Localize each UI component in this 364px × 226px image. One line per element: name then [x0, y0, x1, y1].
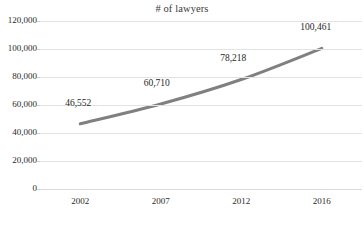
chart-container: # of lawyers 020,00040,00060,00080,00010…	[0, 0, 364, 226]
y-axis-tick-label: 120,000	[0, 15, 37, 25]
y-axis-tick-mark	[37, 49, 40, 50]
x-axis-tick-label: 2002	[50, 196, 110, 206]
y-axis-tick-label: 20,000	[0, 155, 37, 165]
y-axis-tick-mark	[37, 77, 40, 78]
y-axis-tick-mark	[37, 133, 40, 134]
data-point-label: 60,710	[127, 78, 187, 88]
y-axis-tick-label: 80,000	[0, 71, 37, 81]
gridline	[40, 161, 362, 162]
chart-title: # of lawyers	[0, 3, 364, 14]
y-axis-tick-mark	[37, 21, 40, 22]
data-point-label: 78,218	[203, 53, 263, 63]
gridline	[40, 49, 362, 50]
y-axis-tick-mark	[37, 189, 40, 190]
y-axis-tick-label: 0	[0, 183, 37, 193]
y-axis-tick-mark	[37, 105, 40, 106]
gridline	[40, 189, 362, 190]
x-axis-tick-label: 2007	[131, 196, 191, 206]
y-axis-tick-label: 60,000	[0, 99, 37, 109]
y-axis-tick-label: 100,000	[0, 43, 37, 53]
gridline	[40, 77, 362, 78]
y-axis-tick-mark	[37, 161, 40, 162]
x-axis-tick-label: 2012	[211, 196, 271, 206]
data-point-label: 46,552	[48, 98, 108, 108]
x-axis-tick-label: 2016	[292, 196, 352, 206]
x-axis-labels: 2002200720122016	[40, 196, 362, 214]
data-point-label: 100,461	[286, 22, 346, 32]
y-axis-tick-label: 40,000	[0, 127, 37, 137]
y-axis-labels: 020,00040,00060,00080,000100,000120,000	[0, 21, 37, 189]
gridline	[40, 133, 362, 134]
